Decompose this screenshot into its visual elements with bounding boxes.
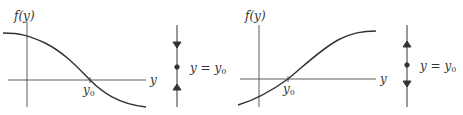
phase-line-figure: f(y) y y0 y = y0 f(y) y y0 y = y0 bbox=[0, 0, 463, 115]
left-phase-label: y = y0 bbox=[190, 62, 226, 76]
right-xlabel: y bbox=[380, 73, 387, 85]
arrow-up-icon bbox=[173, 84, 181, 90]
arrow-down-icon bbox=[173, 42, 181, 48]
equilibrium-dot-icon bbox=[175, 65, 179, 69]
right-phase-label: y = y0 bbox=[420, 60, 456, 74]
arrow-up-icon bbox=[403, 41, 411, 47]
left-phase-line bbox=[173, 25, 181, 107]
left-root-label: y0 bbox=[83, 84, 95, 98]
figure-graphics bbox=[0, 0, 463, 115]
left-xlabel: y bbox=[150, 74, 157, 86]
left-curve bbox=[3, 33, 146, 107]
arrow-down-icon bbox=[403, 81, 411, 87]
right-plot bbox=[238, 25, 376, 107]
right-root-label: y0 bbox=[283, 83, 295, 97]
right-ylabel: f(y) bbox=[245, 10, 266, 22]
left-plot bbox=[3, 22, 146, 107]
left-ylabel: f(y) bbox=[14, 10, 35, 22]
equilibrium-dot-icon bbox=[405, 63, 409, 67]
right-phase-line bbox=[403, 25, 411, 107]
